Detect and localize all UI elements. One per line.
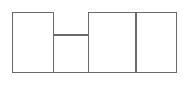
rectangles-diagram — [0, 0, 188, 87]
middle-short-rect — [54, 35, 89, 73]
right-outer-rect — [136, 12, 177, 72]
figure-canvas — [0, 0, 188, 87]
right-inner-rect — [89, 12, 136, 72]
left-tall-rect — [13, 12, 54, 72]
rectangle-group — [13, 12, 177, 72]
